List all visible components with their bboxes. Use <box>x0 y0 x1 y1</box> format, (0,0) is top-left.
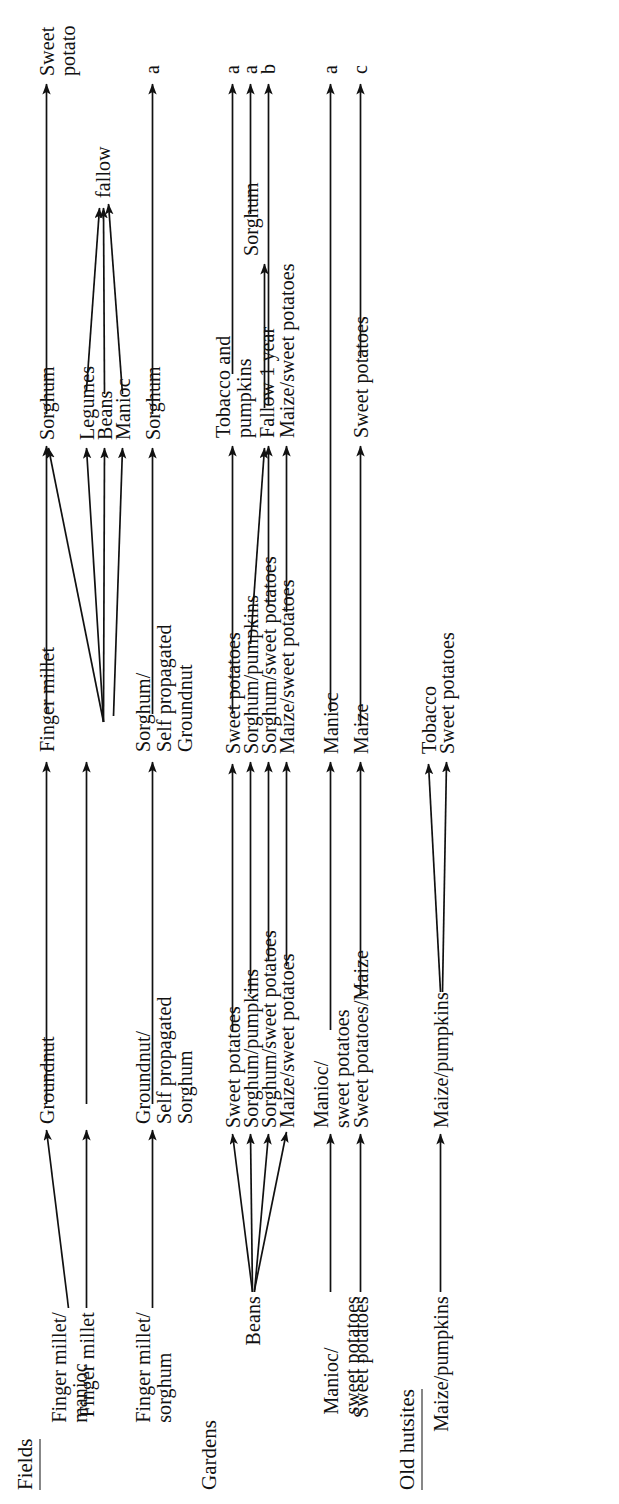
section-header-gardens: Gardens <box>196 1420 221 1490</box>
label-beans-gardens: Beans <box>242 1296 263 1345</box>
label-sorghum-f1: Sorghum <box>36 366 57 440</box>
arrow-h-fan-sweetpot <box>442 762 446 992</box>
label-sorghum-f5: Sorghum <box>142 366 163 440</box>
label-sweet-potatoes-maize-g6-s2: Sweet potatoes/Maize <box>350 950 371 1128</box>
end-tag-a-g5: a <box>318 65 341 74</box>
label-groundnut-self-sorghum: Groundnut/ Self propagated Sorghum <box>132 996 195 1124</box>
arrow-beans-fallow <box>103 208 104 394</box>
arrow-beans-sweetpot <box>232 1134 252 1292</box>
label-sweet-potato: Sweet potato <box>36 25 78 76</box>
label-maize-g6-s3: Maize <box>350 704 371 754</box>
section-header-hutsites: Old hutsites <box>394 1389 422 1490</box>
label-sorghum-self-groundnut: Sorghum/ Self propagated Groundnut <box>132 624 195 752</box>
arrow-layer <box>0 0 619 1504</box>
label-sweet-potatoes-g6: Sweet potatoes <box>350 1296 371 1418</box>
label-finger-millet: Finger millet <box>76 1312 97 1417</box>
label-finger-millet-stage3: Finger millet <box>36 647 57 752</box>
label-fallow: fallow <box>92 146 113 198</box>
label-tobacco-and-pumpkins: Tobacco and pumpkins <box>212 336 254 438</box>
label-manioc-sweet-potatoes-g5-s2: Manioc/ sweet potatoes <box>310 1009 352 1128</box>
label-maize-pumpkins-h-s2: Maize/pumpkins <box>430 992 451 1128</box>
arrow-fan-manioc <box>113 448 122 716</box>
label-maize-sweet-potatoes-g4-s2: Maize/sweet potatoes <box>276 953 297 1128</box>
label-sweet-potatoes-g6-s4: Sweet potatoes <box>350 316 371 438</box>
label-finger-millet-sorghum: Finger millet/ sorghum <box>132 1312 174 1423</box>
arrow-f1-s1 <box>46 1130 68 1308</box>
arrow-h-fan-tobacco <box>428 764 440 992</box>
section-header-fields: Fields <box>12 1439 40 1490</box>
label-fallow-1-year: Fallow 1 year <box>256 327 277 438</box>
label-manioc-g5-s3: Manioc <box>320 692 341 754</box>
label-sorghum-g2-s5: Sorghum <box>240 182 261 256</box>
arrow-beans-maizesweet <box>254 1132 286 1290</box>
end-tag-a-f5: a <box>140 65 163 74</box>
diagram-canvas: Fields Gardens Old hutsites Finger mille… <box>0 0 619 1504</box>
arrow-beans-sorgsweet <box>254 1134 268 1292</box>
label-manioc-fields: Manioc <box>112 378 133 440</box>
arrow-fan-beans <box>103 448 104 722</box>
label-maize-sweet-potatoes-g4-s4: Maize/sweet potatoes <box>276 263 297 438</box>
end-tag-c-g6: c <box>348 65 371 74</box>
label-sweet-potatoes-h2: Sweet potatoes <box>436 632 457 754</box>
end-tag-b-g3: b <box>256 64 279 74</box>
arrow-legumes-fallow <box>86 208 99 390</box>
label-maize-sweet-potatoes-g4-s3: Maize/sweet potatoes <box>276 579 297 754</box>
arrow-manioc-fallow <box>108 204 122 394</box>
label-maize-pumpkins-h-s1: Maize/pumpkins <box>430 1296 451 1432</box>
diagram-page: Fields Gardens Old hutsites Finger mille… <box>0 0 619 1504</box>
label-groundnut-f1: Groundnut <box>36 1036 57 1124</box>
